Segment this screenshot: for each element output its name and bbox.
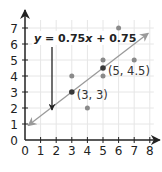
y-tick-label: 3 <box>10 86 18 100</box>
x-tick-label: 6 <box>115 144 123 158</box>
x-tick-label: 7 <box>130 144 138 158</box>
y-tick-label: 4 <box>10 70 18 84</box>
y-tick-label: 1 <box>10 118 18 132</box>
equation-text: = 0.75 <box>41 32 85 45</box>
annotations: (3, 3)(5, 4.5)y = 0.75x + 0.75 <box>32 31 150 110</box>
y-tick-label: 2 <box>10 102 18 116</box>
y-tick-label: 0 <box>10 134 18 148</box>
data-point <box>101 74 106 79</box>
scatter-chart: 01234567801234567 (3, 3)(5, 4.5)y = 0.75… <box>0 0 162 172</box>
trend-line-group <box>28 33 148 125</box>
y-tick-label: 7 <box>10 22 18 36</box>
x-tick-label: 4 <box>84 144 92 158</box>
x-tick-label: 3 <box>68 144 76 158</box>
x-tick-label: 5 <box>99 144 107 158</box>
data-point <box>85 106 90 111</box>
data-point <box>69 74 74 79</box>
point-label: (3, 3) <box>77 88 108 102</box>
x-tick-label: 1 <box>37 144 45 158</box>
point-label: (5, 4.5) <box>108 64 150 78</box>
y-tick-label: 6 <box>10 38 18 52</box>
highlighted-data-point <box>100 65 106 71</box>
x-tick-label: 8 <box>146 144 154 158</box>
x-tick-label: 0 <box>21 144 29 158</box>
y-tick-label: 5 <box>10 54 18 68</box>
trend-line <box>28 33 148 125</box>
data-point <box>132 58 137 63</box>
equation-label: y = 0.75x + 0.75 <box>34 32 136 45</box>
highlighted-data-point <box>69 89 75 95</box>
equation-text: + 0.75 <box>92 32 136 45</box>
x-tick-label: 2 <box>52 144 60 158</box>
data-point <box>101 58 106 63</box>
data-point <box>116 26 121 31</box>
